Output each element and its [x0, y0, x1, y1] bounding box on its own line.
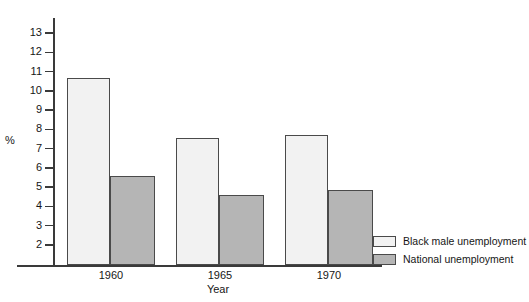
y-axis-tick	[45, 129, 53, 130]
x-axis-line	[17, 265, 382, 267]
y-axis-tick-label: 11	[20, 66, 42, 77]
legend-swatch-icon	[373, 254, 396, 265]
y-axis-tick	[45, 32, 53, 33]
y-axis-tick-label: 9	[20, 104, 42, 115]
y-axis-tick-label: 7	[20, 143, 42, 154]
y-axis-tick-label: 4	[20, 200, 42, 211]
y-axis-tick-label: 10	[20, 85, 42, 96]
bar-1965-series-2	[219, 195, 264, 265]
bar-1970-series-2	[328, 190, 373, 265]
y-axis-title: %	[5, 134, 15, 146]
y-axis-tick	[45, 225, 53, 226]
y-axis-tick	[45, 148, 53, 149]
x-axis-title: Year	[188, 283, 248, 295]
y-axis-tick	[45, 206, 53, 207]
legend-label: Black male unemployment	[403, 235, 526, 247]
y-axis-tick	[45, 167, 53, 168]
y-axis-tick	[45, 244, 53, 245]
y-axis-tick-label: 8	[20, 123, 42, 134]
y-axis-tick-label: 3	[20, 220, 42, 231]
x-axis-tick-label: 1965	[176, 269, 264, 281]
y-axis-tick-label: 12	[20, 46, 42, 57]
y-axis-tick	[45, 186, 53, 187]
y-axis-tick	[45, 71, 53, 72]
bar-1960-series-1	[67, 78, 110, 265]
y-axis-tick-label: 5	[20, 181, 42, 192]
chart-screenshot: 2345678910111213 % 196019651970 Year Bla…	[0, 0, 529, 302]
bar-1960-series-2	[110, 176, 155, 265]
chart-legend: Black male unemploymentNational unemploy…	[373, 232, 526, 268]
bar-chart-plot-area: 2345678910111213 % 196019651970 Year Bla…	[0, 0, 529, 302]
legend-label: National unemployment	[403, 253, 513, 265]
legend-item: Black male unemployment	[373, 232, 526, 250]
x-axis-tick-label: 1960	[67, 269, 155, 281]
y-axis-tick	[45, 90, 53, 91]
y-axis-tick	[45, 52, 53, 53]
y-axis-tick-label: 2	[20, 239, 42, 250]
x-axis-tick-label: 1970	[285, 269, 373, 281]
legend-item: National unemployment	[373, 250, 526, 268]
y-axis-tick-label: 6	[20, 162, 42, 173]
bar-1965-series-1	[176, 138, 219, 265]
y-axis-tick	[45, 109, 53, 110]
y-axis-tick-label: 13	[20, 27, 42, 38]
bar-1970-series-1	[285, 135, 328, 265]
y-axis-line	[53, 18, 55, 267]
legend-swatch-icon	[373, 236, 396, 247]
